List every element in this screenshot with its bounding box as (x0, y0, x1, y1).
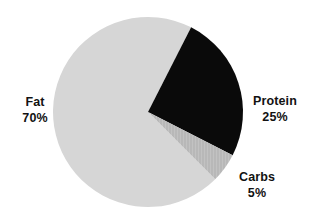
pie-label-protein: Protein 25% (243, 93, 307, 125)
pie-label-protein-value: 25% (243, 109, 307, 125)
pie-label-fat: Fat 70% (8, 94, 62, 126)
pie-label-carbs-name: Carbs (226, 169, 288, 185)
pie-label-carbs-value: 5% (226, 185, 288, 201)
pie-label-fat-name: Fat (8, 94, 62, 110)
pie-label-carbs: Carbs 5% (226, 169, 288, 201)
pie-chart: Fat 70% Protein 25% Carbs 5% (0, 0, 313, 223)
pie-label-protein-name: Protein (243, 93, 307, 109)
pie-label-fat-value: 70% (8, 110, 62, 126)
